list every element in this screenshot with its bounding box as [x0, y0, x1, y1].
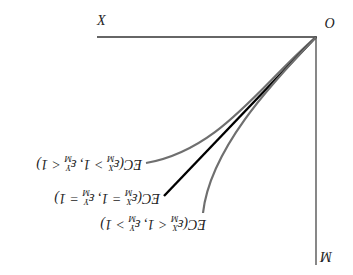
svg-text:EC(εXM > 1, εYM < 1): EC(εXM > 1, εYM < 1)	[36, 154, 143, 173]
middle-line-label: EC(εXM = 1, εYM = 1)	[54, 188, 161, 207]
origin-label: O	[325, 15, 335, 30]
lower-curve-label: EC(εXM < 1, εYM > 1)	[100, 214, 207, 233]
svg-text:EC(εXM < 1, εYM > 1): EC(εXM < 1, εYM > 1)	[100, 214, 207, 233]
svg-text:EC(εXM = 1, εYM = 1): EC(εXM = 1, εYM = 1)	[54, 188, 161, 207]
lower-curve	[203, 37, 316, 213]
upper-curve-label: EC(εXM > 1, εYM < 1)	[36, 154, 143, 173]
expansion-curves-diagram: O X M EC(εXM > 1, εYM < 1) EC(εXM = 1, ε…	[0, 0, 353, 275]
x-axis-label: X	[96, 13, 106, 28]
m-axis-label: M	[319, 249, 333, 264]
upper-curve	[146, 37, 316, 163]
diagram-canvas: O X M EC(εXM > 1, εYM < 1) EC(εXM = 1, ε…	[0, 0, 353, 275]
